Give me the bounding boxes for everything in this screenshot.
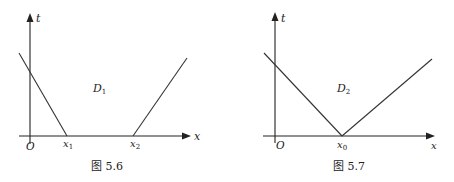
characteristic-line-left <box>264 53 342 136</box>
figure-5-7: t x O x0 D2 图 5.7 <box>263 12 437 173</box>
region-label-d2: D2 <box>336 82 350 96</box>
region-label-d1: D1 <box>92 82 106 96</box>
x-axis-label: x <box>194 130 201 143</box>
figure-caption: 图 5.7 <box>333 160 365 173</box>
origin-label: O <box>26 140 35 152</box>
figure-5-6: t x O x1 x2 D1 图 5.6 <box>19 12 201 173</box>
tick-label-x0: x0 <box>337 139 347 152</box>
t-axis-arrow-icon <box>27 13 34 22</box>
x-axis-label: x <box>431 140 437 151</box>
t-axis-label: t <box>281 12 286 25</box>
characteristic-line-right <box>342 59 432 136</box>
tick-label-x2: x2 <box>130 138 140 151</box>
figure-caption: 图 5.6 <box>91 160 123 173</box>
tick-label-x1: x1 <box>63 138 73 151</box>
characteristic-line-right <box>133 58 187 136</box>
t-axis-label: t <box>36 12 41 25</box>
diagram-canvas: t x O x1 x2 D1 图 5.6 t x O x0 D2 图 5.7 <box>0 0 454 182</box>
x-axis-arrow-icon <box>182 133 191 140</box>
t-axis-arrow-icon <box>272 12 279 21</box>
origin-label: O <box>276 139 285 151</box>
characteristic-line-left <box>19 53 67 136</box>
x-axis-arrow-icon <box>426 133 435 140</box>
